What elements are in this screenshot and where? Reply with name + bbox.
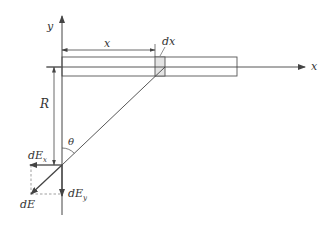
y-axis-label: y [47, 21, 53, 32]
x-axis-label: x [311, 61, 317, 72]
dEx-label: dEx [28, 150, 47, 164]
dx-label: dx [162, 36, 175, 47]
distance-line-to-dx [62, 67, 165, 165]
charged-rod [62, 57, 237, 76]
dx-element-strip [155, 57, 165, 76]
dx-leader-line [160, 47, 165, 56]
dEx-label-main: dE [28, 149, 43, 162]
theta-label: θ [68, 137, 74, 147]
R-label: R [40, 98, 49, 110]
diagram-canvas: y x x dx R θ dEx dEy dE [0, 0, 336, 238]
dEx-label-sub: x [43, 156, 47, 164]
x-distance-label: x [104, 38, 110, 49]
dEy-label-main: dE [68, 187, 83, 200]
dE-vector-arrow [31, 165, 62, 194]
R-distance-dimension [47, 67, 61, 165]
dE-label: dE [20, 199, 35, 210]
theta-arc [62, 148, 74, 153]
dEy-label-sub: y [83, 194, 87, 202]
dEy-label: dEy [68, 188, 87, 202]
